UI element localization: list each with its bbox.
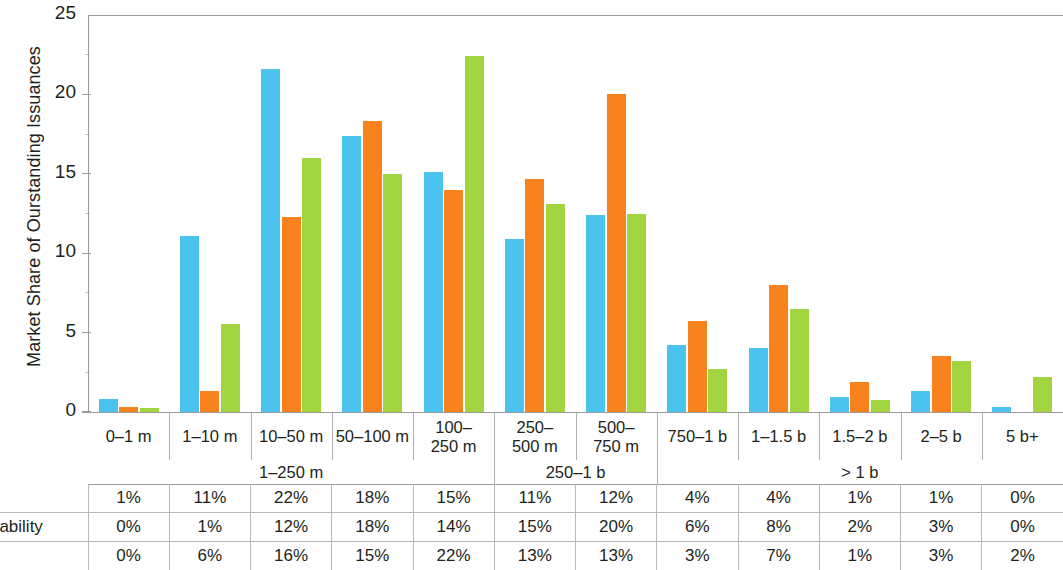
- table-cell: 2%: [982, 542, 1063, 570]
- table-cell: 6%: [657, 513, 738, 542]
- table-row-label: tainability: [0, 513, 88, 542]
- category-axis-label: 2–5 b: [901, 413, 982, 460]
- table-cell: 4%: [657, 484, 738, 513]
- data-table: een1%11%22%18%15%11%12%4%4%1%1%0%tainabi…: [0, 484, 1063, 570]
- bar: [282, 217, 301, 412]
- table-cell: 11%: [494, 484, 575, 513]
- y-axis-tick-label: 25: [30, 2, 76, 24]
- category-group-label: 250–1 b: [494, 460, 657, 485]
- y-axis-tick-label: 10: [30, 240, 76, 262]
- bar: [992, 407, 1011, 412]
- bar: [465, 56, 484, 412]
- table-cell: 12%: [251, 513, 332, 542]
- table-cell: 16%: [251, 542, 332, 570]
- category-axis-label: 1.5–2 b: [819, 413, 900, 460]
- table-row-label: cial: [0, 542, 88, 570]
- bar: [586, 215, 605, 412]
- bar: [952, 361, 971, 412]
- bar: [607, 94, 626, 412]
- y-axis-tick-label: 20: [30, 81, 76, 103]
- category-group-label: 1–250 m: [88, 460, 494, 485]
- bar: [302, 158, 321, 412]
- table-cell: 2%: [819, 513, 900, 542]
- bar: [627, 214, 646, 413]
- table-cell: 12%: [576, 484, 657, 513]
- table-cell: 0%: [88, 542, 169, 570]
- category-axis-label: 1–10 m: [169, 413, 250, 460]
- bar: [180, 236, 199, 412]
- category-group-separator: [657, 460, 658, 485]
- category-axis-label: 100–250 m: [413, 413, 494, 460]
- bar: [769, 285, 788, 412]
- bar: [850, 382, 869, 412]
- category-axis-separator: [332, 413, 333, 460]
- table-cell: 20%: [576, 513, 657, 542]
- bar: [444, 190, 463, 412]
- bar: [871, 400, 890, 412]
- table-row: tainability0%1%12%18%14%15%20%6%8%2%3%0%: [0, 513, 1063, 542]
- table-cell: 15%: [494, 513, 575, 542]
- category-axis-label: 1–1.5 b: [738, 413, 819, 460]
- table-cell: 1%: [169, 513, 250, 542]
- bar: [383, 174, 402, 412]
- table-cell: 22%: [413, 542, 494, 570]
- table-cell: 1%: [819, 484, 900, 513]
- bar: [140, 408, 159, 412]
- bar: [363, 121, 382, 412]
- table-cell: 13%: [576, 542, 657, 570]
- table-cell: 3%: [657, 542, 738, 570]
- table-cell: 0%: [982, 484, 1063, 513]
- category-axis-separator: [901, 413, 902, 460]
- table-cell: 13%: [494, 542, 575, 570]
- bar: [790, 309, 809, 412]
- bar: [932, 356, 951, 412]
- table-row: een1%11%22%18%15%11%12%4%4%1%1%0%: [0, 484, 1063, 513]
- category-axis-label: 750–1 b: [657, 413, 738, 460]
- table-cell: 1%: [901, 484, 982, 513]
- table-cell: 3%: [901, 513, 982, 542]
- bar: [342, 136, 361, 412]
- bar: [708, 369, 727, 412]
- table-cell: 15%: [332, 542, 413, 570]
- bar: [749, 348, 768, 412]
- bar: [830, 397, 849, 412]
- category-group-label: > 1 b: [657, 460, 1063, 485]
- category-axis-label: 250–500 m: [494, 413, 575, 460]
- bar: [911, 391, 930, 412]
- table-cell: 11%: [169, 484, 250, 513]
- table-cell: 0%: [982, 513, 1063, 542]
- table-cell: 14%: [413, 513, 494, 542]
- table-cell: 4%: [738, 484, 819, 513]
- table-cell: 1%: [88, 484, 169, 513]
- category-axis-separator: [576, 413, 577, 460]
- bars-layer: [88, 15, 1063, 412]
- bar: [221, 324, 240, 412]
- category-axis-separator: [413, 413, 414, 460]
- category-axis-separator: [738, 413, 739, 460]
- table-cell: 18%: [332, 513, 413, 542]
- category-axis-separator: [657, 413, 658, 460]
- table-row: cial0%6%16%15%22%13%13%3%7%1%3%2%: [0, 542, 1063, 570]
- bar: [1033, 377, 1052, 412]
- table-cell: 6%: [169, 542, 250, 570]
- table-cell: 22%: [251, 484, 332, 513]
- bar: [546, 204, 565, 412]
- category-axis-separator: [982, 413, 983, 460]
- bar: [261, 69, 280, 412]
- category-group-labels: 1–250 m250–1 b> 1 b: [88, 460, 1063, 485]
- table-cell: 18%: [332, 484, 413, 513]
- category-axis-separator: [169, 413, 170, 460]
- y-axis-tick-label: 0: [30, 399, 76, 421]
- category-axis-separator: [494, 413, 495, 460]
- bar: [99, 399, 118, 412]
- category-axis-label: 50–100 m: [332, 413, 413, 460]
- bar: [200, 391, 219, 412]
- y-axis-title: Market Share of Ourstanding Issuances: [24, 7, 45, 407]
- table-cell: 7%: [738, 542, 819, 570]
- y-axis-tick-label: 15: [30, 161, 76, 183]
- category-axis-label: 500–750 m: [576, 413, 657, 460]
- bar: [688, 321, 707, 412]
- bar: [525, 179, 544, 412]
- table-row-label: een: [0, 484, 88, 513]
